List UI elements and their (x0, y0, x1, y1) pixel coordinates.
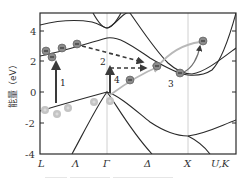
transition-2-arrow (82, 46, 143, 62)
y-axis-label: 能量（eV） (7, 60, 18, 108)
ytick-4: 4 (30, 26, 36, 37)
kpoint-UK: U,K (211, 158, 230, 169)
transition-3-label: 3 (168, 79, 174, 89)
transition-3-arrow (184, 46, 200, 72)
transition-2-label: 2 (100, 57, 106, 67)
plot-frame (40, 13, 236, 154)
ytick-2: 2 (30, 56, 36, 67)
transition-1-label: 1 (60, 78, 66, 88)
band-lowest-conduction (40, 13, 236, 75)
figure-caption-faint (45, 168, 205, 174)
ytick-neg2: -2 (25, 118, 35, 129)
band-gamma-x-upper (130, 13, 236, 74)
transition-4-label: 4 (114, 75, 120, 85)
electrons (42, 37, 207, 84)
band-valence-top (40, 92, 236, 136)
band-valence-x-branch (188, 136, 210, 154)
band-structure-diagram: 4 2 0 -2 -4 能量（eV） L Λ Γ Δ X U,K 1 2 4 3 (0, 0, 246, 178)
kpoint-L: L (37, 158, 45, 169)
ytick-0: 0 (30, 87, 36, 98)
ytick-neg4: -4 (25, 149, 35, 160)
